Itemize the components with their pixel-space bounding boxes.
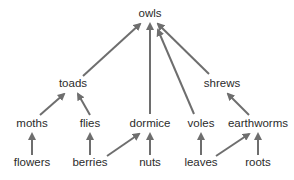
node-nuts: nuts <box>139 157 161 169</box>
arrow-leaves-to-earthworms <box>216 134 249 156</box>
node-flies: flies <box>80 118 100 130</box>
food-web-diagram: owls toads shrews moths flies dormice vo… <box>0 0 294 180</box>
node-toads: toads <box>59 78 87 90</box>
node-roots: roots <box>245 157 271 169</box>
node-leaves: leaves <box>184 157 217 169</box>
node-shrews: shrews <box>204 78 240 90</box>
node-berries: berries <box>72 157 107 169</box>
arrow-berries-to-dormice <box>107 134 139 156</box>
arrows-layer <box>0 0 294 180</box>
arrow-toads-to-owls <box>83 24 140 76</box>
node-flowers: flowers <box>14 157 50 169</box>
arrow-moths-to-toads <box>40 94 64 115</box>
node-owls: owls <box>138 8 161 20</box>
node-dormice: dormice <box>130 118 171 130</box>
node-moths: moths <box>16 118 47 130</box>
arrow-flies-to-toads <box>78 94 90 115</box>
node-voles: voles <box>188 118 215 130</box>
node-earthworms: earthworms <box>228 118 288 130</box>
arrow-earthworms-to-shrews <box>228 94 249 115</box>
